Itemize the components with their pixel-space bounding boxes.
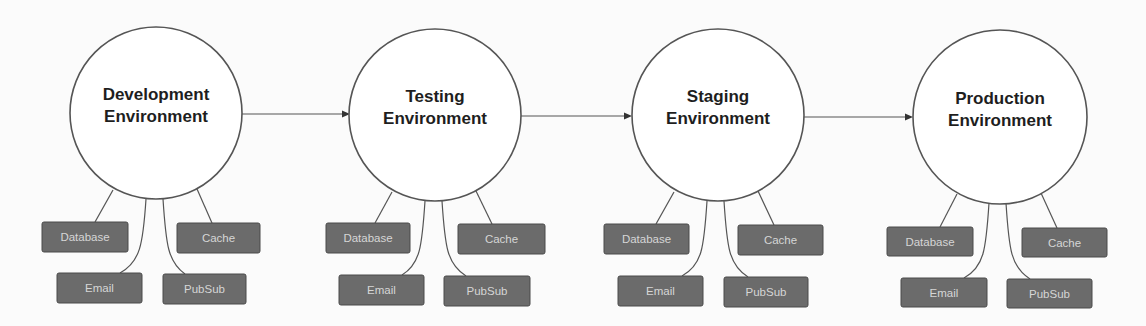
environment-node-staging-environment[interactable]: StagingEnvironment (632, 29, 804, 201)
environment-label-line: Environment (666, 109, 770, 128)
production-environment-service-database[interactable]: Database (887, 227, 973, 256)
testing-environment-service-cache[interactable]: Cache (458, 224, 545, 254)
service-label: Email (367, 284, 396, 296)
production-environment-service-cache[interactable]: Cache (1022, 228, 1107, 257)
service-label: Database (905, 236, 954, 248)
testing-environment-connector-database (375, 192, 392, 223)
testing-environment-service-email[interactable]: Email (339, 275, 424, 305)
service-label: Email (930, 287, 959, 299)
flow-arrow-testing-environment-to-staging-environment (521, 113, 632, 120)
service-label: Cache (764, 234, 797, 246)
service-label: Database (343, 232, 392, 244)
development-environment-service-database[interactable]: Database (42, 222, 128, 252)
development-environment-connector-cache (197, 189, 212, 223)
service-boxes: DatabaseCacheEmailPubSubDatabaseCacheEma… (42, 222, 1107, 308)
environment-pipeline-diagram: DevelopmentEnvironmentTestingEnvironment… (0, 0, 1146, 326)
environment-node-production-environment[interactable]: ProductionEnvironment (913, 30, 1087, 204)
testing-environment-service-pubsub[interactable]: PubSub (444, 276, 530, 306)
service-label: PubSub (184, 283, 225, 295)
staging-environment-service-database[interactable]: Database (604, 224, 689, 254)
production-environment-service-pubsub[interactable]: PubSub (1007, 279, 1092, 308)
environment-label-line: Environment (104, 107, 208, 126)
development-environment-connector-database (95, 190, 113, 222)
staging-environment-service-pubsub[interactable]: PubSub (724, 277, 808, 307)
service-label: PubSub (467, 285, 508, 297)
service-label: Cache (202, 232, 235, 244)
service-label: Email (85, 282, 114, 294)
production-environment-connector-database (940, 194, 957, 227)
arrowhead-icon (905, 114, 913, 121)
arrowhead-icon (624, 113, 632, 120)
production-environment-connector-cache (1041, 193, 1057, 228)
flow-arrows (242, 111, 913, 121)
development-environment-service-email[interactable]: Email (57, 273, 142, 303)
environment-node-testing-environment[interactable]: TestingEnvironment (349, 29, 521, 201)
staging-environment-connector-cache (758, 191, 774, 225)
testing-environment-connector-cache (476, 191, 492, 224)
flow-arrow-staging-environment-to-production-environment (804, 114, 913, 121)
environment-label-line: Environment (383, 109, 487, 128)
development-environment-service-cache[interactable]: Cache (177, 223, 260, 253)
testing-environment-service-database[interactable]: Database (326, 223, 410, 253)
staging-environment-service-cache[interactable]: Cache (738, 225, 823, 255)
production-environment-service-email[interactable]: Email (901, 278, 987, 307)
service-label: Database (622, 233, 671, 245)
staging-environment-service-email[interactable]: Email (618, 276, 703, 306)
service-label: Email (646, 285, 675, 297)
service-label: PubSub (1029, 288, 1070, 300)
service-label: PubSub (746, 286, 787, 298)
service-label: Cache (485, 233, 518, 245)
service-label: Database (60, 231, 109, 243)
environment-node-development-environment[interactable]: DevelopmentEnvironment (70, 27, 242, 199)
service-label: Cache (1048, 237, 1081, 249)
environment-label-line: Testing (405, 87, 464, 106)
staging-environment-connector-database (656, 192, 674, 224)
environment-label-line: Production (955, 89, 1045, 108)
environment-label-line: Development (103, 85, 210, 104)
environment-label-line: Environment (948, 111, 1052, 130)
environment-label-line: Staging (687, 87, 749, 106)
development-environment-service-pubsub[interactable]: PubSub (163, 274, 246, 304)
flow-arrow-development-environment-to-testing-environment (242, 111, 350, 118)
